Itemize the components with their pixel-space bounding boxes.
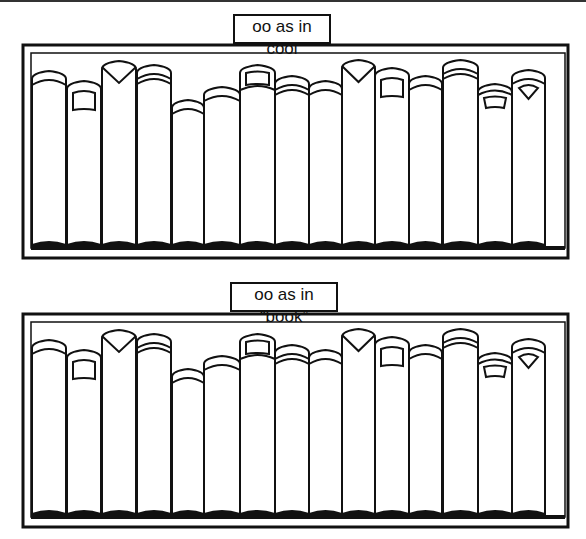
book (409, 76, 442, 249)
bookshelf-drawing (0, 0, 586, 270)
book (512, 70, 545, 249)
book (309, 350, 342, 518)
book (137, 65, 171, 249)
book (137, 334, 171, 518)
book (240, 334, 275, 518)
book (342, 60, 375, 249)
book (443, 329, 478, 518)
book (102, 61, 136, 249)
book (32, 71, 66, 249)
book (478, 84, 512, 249)
book (443, 60, 478, 249)
book (275, 345, 309, 518)
book (204, 356, 240, 518)
book (32, 340, 66, 518)
book (409, 345, 442, 518)
book (275, 76, 309, 249)
book (102, 330, 136, 518)
book (342, 329, 375, 518)
book (309, 81, 342, 249)
book (172, 369, 204, 518)
bookshelf-book (0, 269, 586, 539)
book (67, 350, 101, 518)
book (240, 65, 275, 249)
book (375, 337, 409, 518)
book (478, 353, 512, 518)
book (67, 81, 101, 249)
shelf-base (31, 515, 565, 519)
book (512, 339, 545, 518)
book (204, 87, 240, 249)
shelf-base (31, 246, 565, 250)
book (172, 100, 204, 249)
bookshelf-cool (0, 0, 586, 270)
bookshelf-drawing (0, 269, 586, 539)
book (375, 68, 409, 249)
